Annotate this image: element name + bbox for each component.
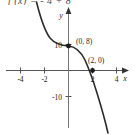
y-axis-label: y (58, 11, 63, 20)
x-tick-label-4: 4 (115, 75, 119, 84)
x-axis (6, 68, 129, 74)
y-axis (66, 7, 72, 128)
x-axis-label: x (122, 74, 127, 83)
coordinate-plot: -4 -2 2 4 10 -10 x y (0, 8) (2, 0) (0, 0, 136, 135)
y-tick-label-10: 10 (55, 41, 63, 50)
annotation-label-y-intercept: (0, 8) (76, 37, 93, 46)
point-marker-x-intercept (90, 68, 95, 73)
y-tick-label-neg10: -10 (52, 93, 62, 102)
point-marker-y-intercept (66, 44, 71, 49)
annotation-label-x-intercept: (2, 0) (88, 56, 105, 65)
function-curve (37, 2, 109, 133)
graph-figure: f (x) = - 4 + 8 (0, 0, 136, 135)
x-tick-label-2: 2 (91, 75, 95, 84)
x-tick-label-neg4: -4 (17, 75, 23, 84)
x-tick-label-neg2: -2 (41, 75, 47, 84)
